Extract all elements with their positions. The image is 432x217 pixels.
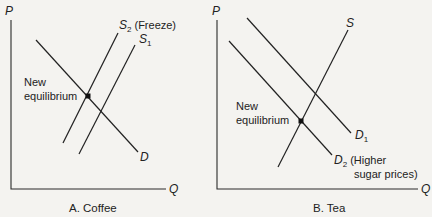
- panel-a-caption: A. Coffee: [69, 202, 117, 214]
- panel-b-caption: B. Tea: [313, 202, 346, 214]
- panel-b-equilibrium-label-line1: New: [236, 100, 258, 112]
- panel-b-supply-curve: [278, 30, 348, 167]
- panel-b-tea: P Q S D1 D2(Higher sugar prices) New equ…: [212, 4, 430, 214]
- panel-b-quantity-axis-label: Q: [421, 182, 430, 196]
- panel-a-s1-label: S1: [139, 32, 152, 48]
- panel-a-s2-label: S2(Freeze): [119, 18, 176, 34]
- panel-a-d-label: D: [140, 150, 149, 164]
- panel-b-d1-label: D1: [355, 128, 369, 144]
- panel-b-d2-note-line2: sugar prices): [354, 168, 418, 180]
- panel-b-price-axis-label: P: [212, 4, 220, 18]
- panel-b-s-label: S: [346, 16, 354, 30]
- panel-a-equilibrium-label-line2: equilibrium: [24, 90, 77, 102]
- panel-a-coffee: P Q S2(Freeze) S1 D New equilibrium A. C…: [5, 4, 178, 214]
- panel-b-demand-d2-curve: [229, 41, 332, 155]
- panel-a-equilibrium-point: [86, 94, 91, 99]
- panel-a-price-axis-label: P: [5, 4, 13, 18]
- panel-b-equilibrium-point: [299, 119, 304, 124]
- panel-b-equilibrium-label-line2: equilibrium: [236, 114, 289, 126]
- panel-a-supply-s2-curve: [63, 33, 118, 143]
- panel-a-quantity-axis-label: Q: [169, 182, 178, 196]
- panel-a-supply-s1-curve: [79, 45, 135, 154]
- panel-b-d2-label: D2(Higher: [334, 153, 387, 169]
- supply-demand-figure: P Q S2(Freeze) S1 D New equilibrium A. C…: [0, 0, 432, 217]
- panel-a-equilibrium-label-line1: New: [24, 76, 46, 88]
